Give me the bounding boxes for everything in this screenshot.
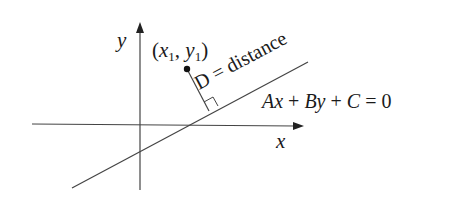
x-axis	[32, 124, 296, 126]
x-axis-arrow-icon	[293, 122, 304, 130]
y-axis-arrow-icon	[136, 22, 144, 33]
point-label: (x1, y1)	[152, 38, 208, 64]
line-equation: Ax + By + C = 0	[260, 90, 391, 113]
y-axis-label: y	[115, 28, 127, 52]
point-x1-y1	[184, 66, 190, 72]
distance-diagram: y x (x1, y1) D = distance Ax + By + C = …	[0, 0, 459, 203]
x-axis-label: x	[275, 129, 286, 153]
